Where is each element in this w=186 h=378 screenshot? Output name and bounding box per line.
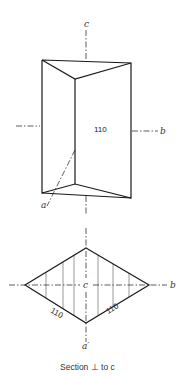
- c-axis-label: c: [84, 19, 89, 29]
- a-axis-label: a: [41, 200, 46, 210]
- prism-figure: c b a 110: [16, 19, 166, 215]
- prism-outline: [42, 60, 131, 198]
- section-figure: c b a′ 110 110 Section ⊥ to c: [9, 228, 176, 372]
- section-a-label: a′: [82, 341, 89, 351]
- face-label-110: 110: [94, 125, 107, 134]
- a-axis: [47, 150, 75, 206]
- b-axis-label: b: [160, 126, 166, 136]
- section-center-label: c: [83, 280, 88, 290]
- prism-bottom-edge: [42, 193, 131, 198]
- crystal-diagram: c b a 110 c b a′: [0, 0, 186, 378]
- section-b-label: b: [170, 280, 176, 290]
- section-caption: Section ⊥ to c: [60, 362, 116, 372]
